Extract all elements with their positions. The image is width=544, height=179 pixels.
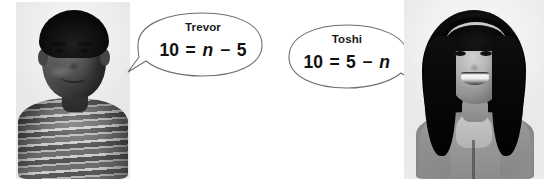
- speech-bubble-toshi: Toshi 10 = 5 − n: [286, 22, 420, 92]
- hoodie-zipper: [472, 140, 475, 179]
- photo-mask-trevor: [16, 2, 130, 179]
- left-eyebrow: [453, 45, 467, 49]
- left-eye: [454, 51, 466, 56]
- smile: [61, 72, 87, 83]
- left-eyebrow: [51, 42, 66, 46]
- photo-content-trevor: [16, 2, 130, 179]
- photo-content-toshi: [404, 0, 544, 179]
- photo-mask-toshi: [404, 0, 544, 179]
- right-eyebrow: [77, 42, 92, 46]
- right-eye: [480, 51, 492, 56]
- speech-bubble-trevor: Trevor 10 = n − 5: [126, 10, 266, 80]
- smile: [461, 72, 489, 85]
- nose: [468, 60, 481, 71]
- right-eyebrow: [479, 45, 493, 49]
- student-photo-trevor: [16, 2, 130, 179]
- right-eye: [78, 48, 91, 54]
- speech-bubble-shape-toshi: [286, 22, 420, 92]
- student-photo-toshi: [404, 0, 544, 179]
- speech-bubble-shape-trevor: [126, 10, 266, 80]
- hair-left-strand: [424, 36, 456, 156]
- left-eye: [52, 48, 65, 54]
- illustration-scene: Trevor 10 = n − 5 Toshi 10 = 5 − n: [0, 0, 544, 179]
